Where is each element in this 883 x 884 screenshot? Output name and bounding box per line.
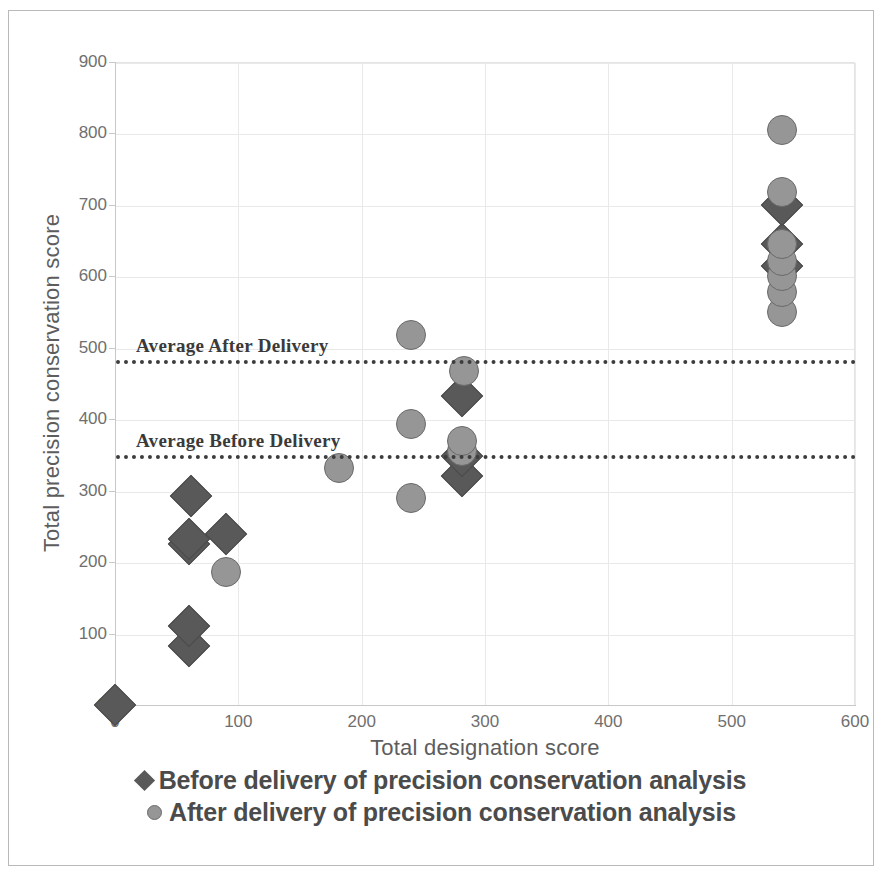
gridline-vertical — [855, 63, 856, 705]
x-tick-label: 300 — [471, 712, 499, 732]
y-tick-label: 500 — [79, 338, 107, 358]
reference-line — [116, 455, 856, 459]
x-axis-title: Total designation score — [115, 735, 855, 761]
y-tick-label: 700 — [79, 195, 107, 215]
legend-label-before: Before delivery of precision conservatio… — [159, 766, 746, 795]
x-tick-label: 500 — [717, 712, 745, 732]
data-point-after — [767, 115, 797, 145]
y-tick-mark — [109, 133, 115, 134]
y-tick-label: 200 — [79, 552, 107, 572]
x-tick-label: 600 — [841, 712, 869, 732]
diamond-marker-icon — [134, 770, 155, 791]
data-point-after — [767, 229, 797, 259]
gridline-vertical — [485, 63, 486, 705]
y-tick-label: 800 — [79, 123, 107, 143]
gridline-vertical — [362, 63, 363, 705]
chart-legend: Before delivery of precision conservatio… — [0, 766, 883, 830]
scatter-plot-figure: 0100200300400500600700800900 01002003004… — [0, 0, 883, 884]
y-tick-label: 100 — [79, 624, 107, 644]
y-tick-mark — [109, 419, 115, 420]
x-tick-label: 200 — [347, 712, 375, 732]
data-point-after — [767, 177, 797, 207]
y-tick-label: 600 — [79, 266, 107, 286]
plot-area — [115, 62, 855, 705]
y-tick-label: 900 — [79, 52, 107, 72]
y-tick-mark — [109, 562, 115, 563]
y-tick-mark — [109, 276, 115, 277]
legend-label-after: After delivery of precision conservation… — [169, 798, 736, 827]
y-tick-mark — [109, 62, 115, 63]
y-tick-label: 400 — [79, 409, 107, 429]
y-tick-mark — [109, 348, 115, 349]
x-tick-label: 100 — [224, 712, 252, 732]
data-point-after — [396, 483, 426, 513]
x-axis-line — [115, 705, 856, 706]
y-tick-mark — [109, 634, 115, 635]
y-axis-title: Total precision conservation score — [39, 103, 65, 663]
gridline-vertical — [732, 63, 733, 705]
data-point-after — [396, 409, 426, 439]
data-point-after — [211, 557, 241, 587]
data-point-after — [447, 426, 477, 456]
gridline-vertical — [608, 63, 609, 705]
x-tick-label: 400 — [594, 712, 622, 732]
y-axis-line — [115, 62, 116, 706]
y-tick-mark — [109, 491, 115, 492]
y-axis-tick-labels: 0100200300400500600700800900 — [58, 0, 107, 884]
reference-line — [116, 360, 856, 364]
data-point-after — [396, 320, 426, 350]
legend-item-after: After delivery of precision conservation… — [0, 798, 883, 827]
reference-line-label: Average After Delivery — [136, 335, 329, 357]
gridline-vertical — [238, 63, 239, 705]
legend-item-before: Before delivery of precision conservatio… — [0, 766, 883, 795]
y-tick-mark — [109, 205, 115, 206]
reference-line-label: Average Before Delivery — [136, 430, 341, 452]
y-tick-label: 300 — [79, 481, 107, 501]
circle-marker-icon — [147, 805, 162, 820]
